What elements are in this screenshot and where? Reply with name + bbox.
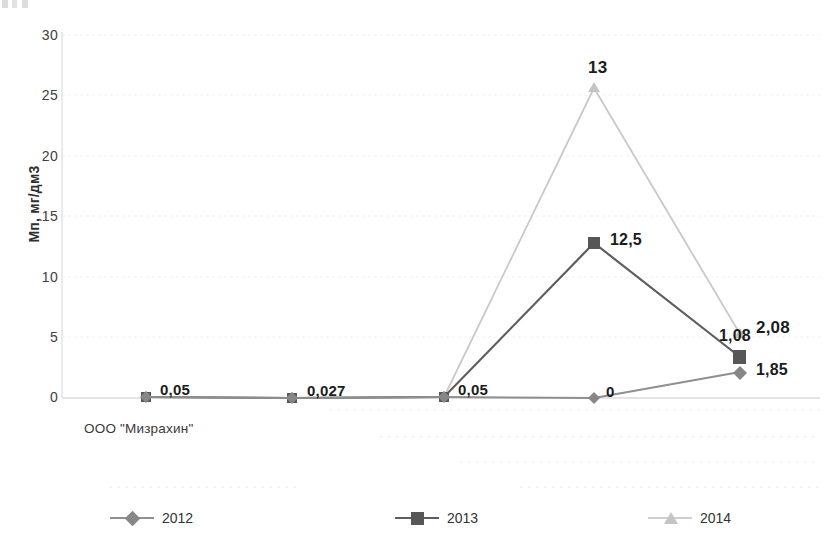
data-label-p5-2013: 2,08 (756, 318, 790, 338)
data-label-p5-2012: 1,85 (756, 361, 788, 379)
data-label-p3: 0,05 (458, 381, 488, 398)
scan-noise-band (110, 410, 820, 487)
legend-key-2013 (395, 511, 439, 525)
legend-item-2013[interactable]: 2013 (395, 505, 478, 531)
legend-label-2014: 2014 (698, 510, 731, 526)
chart-legend: 2012 2013 2014 (0, 505, 827, 535)
data-label-p4-2013: 12,5 (610, 231, 642, 249)
y-tick-25: 25 (18, 87, 58, 103)
legend-item-2012[interactable]: 2012 (110, 505, 193, 531)
category-label: ООО "Мизрахин" (84, 421, 193, 436)
legend-label-2013: 2013 (445, 510, 478, 526)
data-label-p1: 0,05 (160, 381, 190, 398)
triangle-icon (664, 512, 678, 524)
legend-key-2012 (110, 511, 154, 525)
y-tick-30: 30 (18, 27, 58, 43)
legend-label-2012: 2012 (160, 510, 193, 526)
y-tick-5: 5 (18, 329, 58, 345)
data-label-p5-2014: 1,08 (719, 327, 751, 345)
square-icon (411, 512, 424, 525)
legend-item-2014[interactable]: 2014 (648, 505, 731, 531)
line-chart-plot (0, 0, 827, 540)
legend-key-2014 (648, 511, 692, 525)
data-label-p4-2014: 13 (588, 58, 607, 78)
y-tick-0: 0 (18, 389, 58, 405)
diamond-icon (125, 511, 141, 527)
y-axis-title: Мп, мг/дм3 (26, 124, 42, 284)
chart-container: 30 25 20 15 10 5 0 Мп, мг/дм3 ООО "Мизра… (0, 0, 827, 540)
data-label-p4-2012: 0 (606, 383, 615, 400)
data-label-p2: 0,027 (307, 382, 346, 399)
